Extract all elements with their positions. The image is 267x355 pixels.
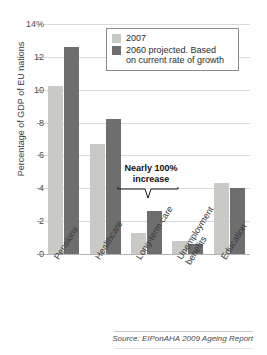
y-tick-mark-8 — [37, 123, 42, 124]
annotation-nearly-100-percent-increase: Nearly 100% increase — [108, 163, 194, 185]
bar-pensions-2007 — [48, 86, 63, 254]
bottom-divider — [114, 348, 253, 349]
legend-label-2007: 2007 — [126, 33, 146, 43]
legend-label-2060: 2060 projected. Basedon current rate of … — [126, 45, 224, 65]
y-tick-mark-12 — [37, 57, 42, 58]
bar-healthcare-2007 — [90, 144, 105, 254]
bar-pensions-2060 — [64, 47, 79, 254]
legend-entry-2060: 2060 projected. Basedon current rate of … — [112, 45, 233, 65]
x-axis-labels: Pensions Healthcare Long-term care Unemp… — [43, 256, 253, 330]
y-tick-mark-14 — [37, 24, 42, 25]
y-tick-mark-6 — [37, 155, 42, 156]
source-divider — [114, 331, 253, 332]
legend-entry-2007: 2007 — [112, 33, 233, 43]
source-note: Source: EIPonAHA 2009 Ageing Report — [0, 334, 253, 343]
y-tick-mark-2 — [37, 221, 42, 222]
y-tick-mark-0 — [37, 254, 42, 255]
y-tick-mark-4 — [37, 188, 42, 189]
y-axis-title: Percentage of GDP of EU nations — [16, 24, 26, 194]
chart-figure: 02468101214% Percentage of GDP of EU nat… — [0, 0, 267, 355]
legend-swatch-icon-2007 — [112, 34, 121, 43]
legend: 2007 2060 projected. Basedon current rat… — [106, 28, 239, 71]
bar-group-pensions — [43, 24, 84, 254]
legend-swatch-icon-2060 — [112, 46, 121, 55]
annotation-pointer-icon — [117, 186, 179, 200]
y-tick-mark-10 — [37, 90, 42, 91]
page-title — [44, 0, 244, 1]
